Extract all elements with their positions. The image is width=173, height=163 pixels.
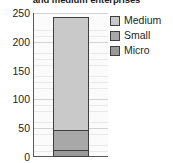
- plot-area: [33, 13, 108, 157]
- legend-swatch-small-icon: [110, 31, 120, 41]
- legend-item-micro[interactable]: Micro: [110, 43, 173, 58]
- y-tick-label-200: 200: [0, 37, 30, 47]
- chart-title: and medium enterprises: [0, 0, 173, 5]
- legend-label-medium: Medium: [124, 15, 161, 26]
- legend-label-micro: Micro: [124, 45, 150, 56]
- legend-item-medium[interactable]: Medium: [110, 13, 173, 28]
- y-tick-label-0: 0: [0, 152, 30, 162]
- legend: Medium Small Micro: [110, 13, 173, 58]
- y-axis-labels: 250 200 150 100 50 0: [0, 13, 30, 157]
- legend-swatch-medium-icon: [110, 16, 120, 26]
- y-tick-label-100: 100: [0, 94, 30, 104]
- chart-container: and medium enterprises 250 200 150 100 5…: [0, 0, 173, 163]
- bar-segment-micro[interactable]: [53, 150, 89, 157]
- bar-segment-small[interactable]: [53, 130, 89, 151]
- legend-item-small[interactable]: Small: [110, 28, 173, 43]
- bar-segment-medium[interactable]: [53, 17, 89, 132]
- y-tick-label-50: 50: [0, 123, 30, 133]
- y-tick-label-150: 150: [0, 66, 30, 76]
- y-tick-label-250: 250: [0, 8, 30, 18]
- legend-swatch-micro-icon: [110, 46, 120, 56]
- legend-label-small: Small: [124, 30, 150, 41]
- stacked-bar[interactable]: [53, 17, 89, 156]
